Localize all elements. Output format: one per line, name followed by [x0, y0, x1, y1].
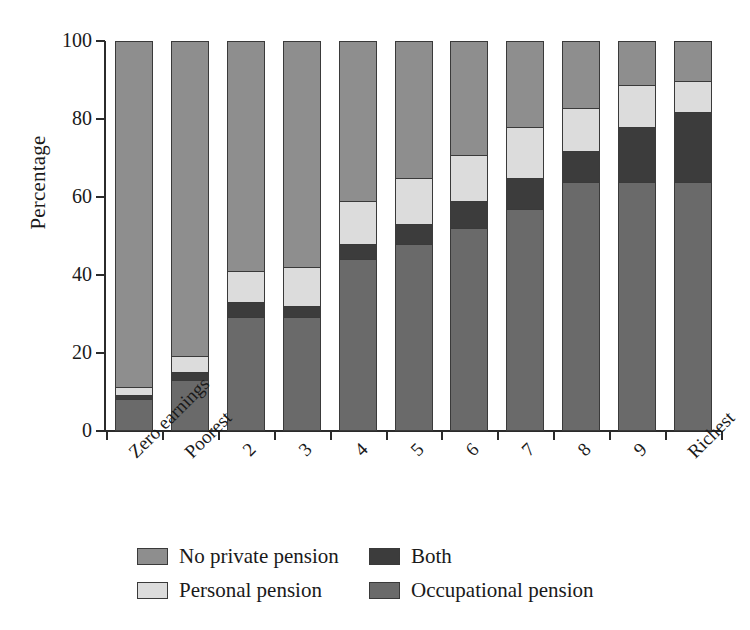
x-tick-label: 8: [574, 439, 594, 459]
bar-6: [450, 41, 488, 431]
bar-segment-personal-pension: [116, 387, 152, 395]
bar-segment-no-private-pension: [396, 42, 432, 178]
bar-segment-occupational-pension: [675, 182, 711, 430]
bar-segment-personal-pension: [228, 271, 264, 302]
y-tick-mark: [96, 118, 105, 120]
bar-segment-both: [563, 151, 599, 182]
bar-segment-personal-pension: [563, 108, 599, 151]
bar-segment-both: [675, 112, 711, 182]
x-tick-mark: [553, 431, 555, 440]
x-tick-label: 7: [518, 439, 538, 459]
y-tick-label: 80: [42, 108, 92, 128]
bar-segment-personal-pension: [619, 85, 655, 128]
legend-swatch-icon: [137, 582, 168, 599]
bar-poorest: [171, 41, 209, 431]
bar-segment-both: [619, 127, 655, 181]
bar-segment-personal-pension: [340, 201, 376, 244]
legend-item: No private pension: [137, 546, 369, 567]
y-tick-label: 20: [42, 342, 92, 362]
x-tick-mark: [386, 431, 388, 440]
legend-swatch-icon: [137, 548, 168, 565]
y-tick-mark: [96, 40, 105, 42]
bar-segment-occupational-pension: [340, 259, 376, 430]
legend-label: Occupational pension: [411, 580, 594, 601]
x-tick-mark: [274, 431, 276, 440]
chart-legend: No private pensionBothPersonal pensionOc…: [137, 539, 607, 607]
x-tick-label: 6: [462, 439, 482, 459]
bar-segment-no-private-pension: [507, 42, 543, 127]
bar-segment-both: [228, 302, 264, 318]
bar-segment-personal-pension: [675, 81, 711, 112]
x-tick-mark: [609, 431, 611, 440]
bar-segment-occupational-pension: [396, 244, 432, 430]
bar-zero-earnings: [115, 41, 153, 431]
bar-segment-personal-pension: [172, 356, 208, 372]
bar-segment-personal-pension: [451, 155, 487, 202]
bar-segment-no-private-pension: [172, 42, 208, 356]
bar-segment-no-private-pension: [675, 42, 711, 81]
legend-item: Both: [369, 546, 607, 567]
bar-3: [283, 41, 321, 431]
bar-segment-occupational-pension: [451, 228, 487, 430]
bar-segment-no-private-pension: [284, 42, 320, 267]
legend-swatch-icon: [369, 548, 400, 565]
y-tick-mark: [96, 352, 105, 354]
x-tick-mark: [330, 431, 332, 440]
bar-segment-no-private-pension: [228, 42, 264, 271]
x-tick-mark: [441, 431, 443, 440]
bar-segment-no-private-pension: [563, 42, 599, 108]
bar-5: [395, 41, 433, 431]
y-tick-label: 60: [42, 186, 92, 206]
bar-segment-no-private-pension: [116, 42, 152, 387]
y-tick-mark: [96, 196, 105, 198]
bar-segment-both: [396, 224, 432, 243]
bar-segment-no-private-pension: [619, 42, 655, 85]
bar-segment-personal-pension: [396, 178, 432, 225]
bar-segment-occupational-pension: [619, 182, 655, 430]
bar-2: [227, 41, 265, 431]
legend-label: Personal pension: [179, 580, 322, 601]
bar-segment-no-private-pension: [340, 42, 376, 201]
x-tick-mark: [106, 431, 108, 440]
bar-segment-personal-pension: [284, 267, 320, 306]
bar-segment-both: [451, 201, 487, 228]
bar-segment-occupational-pension: [507, 209, 543, 430]
bar-segment-occupational-pension: [284, 317, 320, 430]
bar-segment-both: [340, 244, 376, 260]
x-tick-mark: [665, 431, 667, 440]
bar-8: [562, 41, 600, 431]
y-tick-mark: [96, 274, 105, 276]
x-tick-label: 5: [407, 439, 427, 459]
stacked-bar-chart: Percentage 020406080100 Zero earningsPoo…: [0, 0, 750, 630]
bar-segment-occupational-pension: [563, 182, 599, 430]
legend-item: Personal pension: [137, 580, 369, 601]
y-tick-label: 40: [42, 264, 92, 284]
bar-7: [506, 41, 544, 431]
legend-item: Occupational pension: [369, 580, 607, 601]
y-tick-label: 0: [42, 420, 92, 440]
legend-label: Both: [411, 546, 452, 567]
legend-label: No private pension: [179, 546, 339, 567]
x-tick-mark: [497, 431, 499, 440]
bar-segment-both: [284, 306, 320, 318]
x-tick-label: 2: [239, 439, 259, 459]
x-tick-label: 3: [295, 439, 315, 459]
bar-segment-both: [507, 178, 543, 209]
y-tick-mark: [96, 430, 105, 432]
x-tick-label: 9: [630, 439, 650, 459]
bar-segment-occupational-pension: [228, 317, 264, 430]
bar-segment-no-private-pension: [451, 42, 487, 155]
bar-9: [618, 41, 656, 431]
y-axis-title: Percentage: [26, 73, 51, 293]
bar-segment-personal-pension: [507, 127, 543, 177]
bar-richest: [674, 41, 712, 431]
bar-4: [339, 41, 377, 431]
y-tick-label: 100: [42, 30, 92, 50]
x-tick-label: 4: [351, 439, 371, 459]
legend-swatch-icon: [369, 582, 400, 599]
